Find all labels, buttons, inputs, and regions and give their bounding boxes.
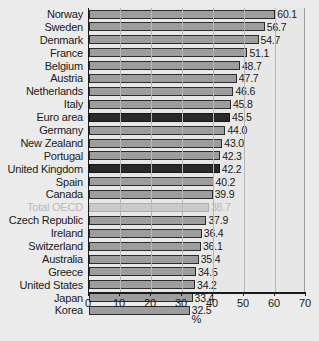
bar-row: 40.2: [89, 176, 304, 189]
x-tick-label: 50: [237, 297, 249, 309]
bar-row: 44.0: [89, 124, 304, 137]
bar-row: 39.9: [89, 188, 304, 201]
category-label: Euro area: [0, 111, 86, 124]
bar-value-label: 45.5: [230, 111, 252, 124]
bar: [89, 267, 196, 276]
category-label: Korea: [0, 304, 86, 317]
bar: [89, 229, 202, 238]
bar-row: 48.7: [89, 60, 304, 73]
bar: [89, 151, 220, 160]
bar: [89, 100, 231, 109]
bar: [89, 242, 201, 251]
category-axis-labels: NorwaySwedenDenmarkFranceBelgiumAustriaN…: [0, 8, 86, 317]
bar: [89, 22, 265, 31]
category-label: Ireland: [0, 227, 86, 240]
bar-row: 45.8: [89, 98, 304, 111]
category-label: Total OECD: [0, 201, 86, 214]
category-label: Canada: [0, 188, 86, 201]
bar-row: 36.4: [89, 227, 304, 240]
x-tick-label: 20: [144, 297, 156, 309]
x-tick-label: 30: [175, 297, 187, 309]
x-tick: [88, 292, 89, 296]
category-label: Portugal: [0, 150, 86, 163]
bar-row: 34.2: [89, 279, 304, 292]
x-tick: [305, 292, 306, 296]
bar-row: 37.9: [89, 214, 304, 227]
bar: [89, 164, 220, 173]
bar-value-label: 35.4: [199, 253, 221, 266]
bar-row: 42.2: [89, 163, 304, 176]
bar-row: 47.7: [89, 72, 304, 85]
bar-chart: NorwaySwedenDenmarkFranceBelgiumAustriaN…: [0, 0, 319, 341]
bar-rows: 60.156.754.751.148.747.746.645.845.544.0…: [89, 8, 304, 292]
category-label: Denmark: [0, 34, 86, 47]
category-label: Austria: [0, 72, 86, 85]
bar-value-label: 43.0: [222, 137, 244, 150]
bar-value-label: 39.9: [213, 188, 235, 201]
bar-value-label: 42.3: [220, 150, 242, 163]
bar-value-label: 37.9: [206, 214, 228, 227]
category-label: Spain: [0, 176, 86, 189]
bar: [89, 126, 225, 135]
x-tick-label: 0: [85, 297, 91, 309]
category-label: Norway: [0, 8, 86, 21]
category-label: Italy: [0, 98, 86, 111]
bar-value-label: 40.2: [214, 176, 236, 189]
bar-row: 51.1: [89, 47, 304, 60]
category-label: Greece: [0, 266, 86, 279]
category-label: Sweden: [0, 21, 86, 34]
category-label: United States: [0, 279, 86, 292]
category-label: Switzerland: [0, 240, 86, 253]
bar-row: 36.1: [89, 240, 304, 253]
x-tick: [274, 292, 275, 296]
bar: [89, 48, 247, 57]
x-tick: [150, 292, 151, 296]
x-tick: [181, 292, 182, 296]
bar-value-label: 51.1: [247, 47, 269, 60]
plot-area: 60.156.754.751.148.747.746.645.845.544.0…: [88, 8, 305, 292]
bar-row: 45.5: [89, 111, 304, 124]
category-label: Germany: [0, 124, 86, 137]
bar: [89, 74, 237, 83]
bar: [89, 203, 209, 212]
x-tick: [212, 292, 213, 296]
category-label: France: [0, 47, 86, 60]
category-label: Czech Republic: [0, 214, 86, 227]
bar-value-label: 42.2: [220, 163, 242, 176]
bar-row: 42.3: [89, 150, 304, 163]
bar: [89, 113, 230, 122]
x-axis-line: [88, 292, 305, 294]
x-tick: [243, 292, 244, 296]
bar-row: 35.4: [89, 253, 304, 266]
bar-row: 60.1: [89, 8, 304, 21]
bar-value-label: 54.7: [259, 34, 281, 47]
bar-row: 56.7: [89, 21, 304, 34]
bar-row: 46.6: [89, 85, 304, 98]
gridline: [244, 8, 245, 292]
gridline: [275, 8, 276, 292]
category-label: United Kingdom: [0, 163, 86, 176]
x-tick-label: 10: [113, 297, 125, 309]
gridline: [151, 8, 152, 292]
bar-value-label: 47.7: [237, 72, 259, 85]
category-label: Belgium: [0, 60, 86, 73]
x-tick-label: 70: [299, 297, 311, 309]
x-tick: [119, 292, 120, 296]
bar-row: 54.7: [89, 34, 304, 47]
bar: [89, 35, 259, 44]
gridline: [213, 8, 214, 292]
bar-value-label: 34.5: [196, 266, 218, 279]
bar: [89, 216, 206, 225]
bar: [89, 61, 240, 70]
gridline: [182, 8, 183, 292]
bar-value-label: 45.8: [231, 98, 253, 111]
category-label: Australia: [0, 253, 86, 266]
category-label: New Zealand: [0, 137, 86, 150]
bar-row: 43.0: [89, 137, 304, 150]
x-axis-title: %: [88, 313, 305, 325]
gridline: [120, 8, 121, 292]
x-tick-label: 40: [206, 297, 218, 309]
bar-row: 34.5: [89, 266, 304, 279]
bar: [89, 87, 233, 96]
category-label: Netherlands: [0, 85, 86, 98]
